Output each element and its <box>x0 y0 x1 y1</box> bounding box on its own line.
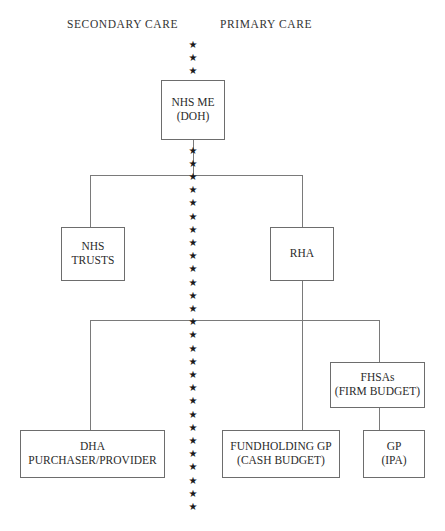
divider-star: ★ <box>186 357 200 367</box>
node-dha: DHAPURCHASER/PROVIDER <box>20 430 165 478</box>
divider-star: ★ <box>186 40 200 50</box>
divider-star: ★ <box>186 436 200 446</box>
connector-fhsas-to-gp <box>379 408 380 431</box>
divider-star: ★ <box>186 212 200 222</box>
divider-star: ★ <box>186 370 200 380</box>
node-nhs-trusts-line-2: TRUSTS <box>72 254 115 268</box>
connector-bus-upper-left-drop <box>90 175 91 228</box>
node-fundholding-gp: FUNDHOLDING GP(CASH BUDGET) <box>222 430 340 478</box>
node-fundholding-gp-line-2: (CASH BUDGET) <box>237 454 325 468</box>
diagram-canvas: SECONDARY CAREPRIMARY CARE ★★★★★★★★★★★★★… <box>0 0 445 531</box>
connector-bus-upper <box>90 175 303 176</box>
divider-star: ★ <box>186 251 200 261</box>
divider-star: ★ <box>186 317 200 327</box>
divider-star: ★ <box>186 238 200 248</box>
divider-star: ★ <box>186 264 200 274</box>
node-dha-line-1: DHA <box>80 440 105 454</box>
node-nhs-me-line-2: (DOH) <box>177 110 210 124</box>
node-rha-line-1: RHA <box>290 247 314 261</box>
node-nhs-trusts-line-1: NHS <box>81 240 104 254</box>
node-nhs-me-line-1: NHS ME <box>171 96 214 110</box>
divider-star: ★ <box>186 225 200 235</box>
node-gp-ipa-line-1: GP <box>387 440 402 454</box>
node-rha: RHA <box>270 227 334 281</box>
divider-star: ★ <box>186 291 200 301</box>
divider-star: ★ <box>186 344 200 354</box>
node-fhsas-line-2: (FIRM BUDGET) <box>335 385 420 399</box>
node-nhs-me: NHS ME(DOH) <box>161 80 225 140</box>
node-fundholding-gp-line-1: FUNDHOLDING GP <box>230 440 331 454</box>
node-nhs-trusts: NHSTRUSTS <box>61 227 125 281</box>
node-gp-ipa-line-2: (IPA) <box>381 454 406 468</box>
divider-star: ★ <box>186 383 200 393</box>
node-dha-line-2: PURCHASER/PROVIDER <box>28 454 156 468</box>
divider-star: ★ <box>186 198 200 208</box>
connector-bus-lower-left-drop <box>90 320 91 431</box>
divider-star: ★ <box>186 462 200 472</box>
divider-star: ★ <box>186 476 200 486</box>
node-fhsas-line-1: FHSAs <box>361 371 395 385</box>
divider-star: ★ <box>186 66 200 76</box>
divider-star: ★ <box>186 449 200 459</box>
node-fhsas: FHSAs(FIRM BUDGET) <box>330 362 425 408</box>
divider-star: ★ <box>186 185 200 195</box>
divider-star: ★ <box>186 410 200 420</box>
divider-star: ★ <box>186 278 200 288</box>
column-header-1: SECONDARY CARE <box>67 18 178 30</box>
node-gp-ipa: GP(IPA) <box>363 430 425 478</box>
connector-rha-to-bus2 <box>302 281 303 431</box>
divider-star: ★ <box>186 330 200 340</box>
divider-star: ★ <box>186 489 200 499</box>
connector-bus-upper-right-drop <box>302 175 303 228</box>
divider-star: ★ <box>186 304 200 314</box>
divider-star: ★ <box>186 53 200 63</box>
connector-bus-lower-right-drop <box>379 320 380 363</box>
connector-bus-lower <box>90 320 380 321</box>
divider-star: ★ <box>186 502 200 512</box>
divider-star: ★ <box>186 396 200 406</box>
connector-nhsme-to-bus1 <box>193 140 194 176</box>
column-header-2: PRIMARY CARE <box>220 18 312 30</box>
divider-star: ★ <box>186 423 200 433</box>
